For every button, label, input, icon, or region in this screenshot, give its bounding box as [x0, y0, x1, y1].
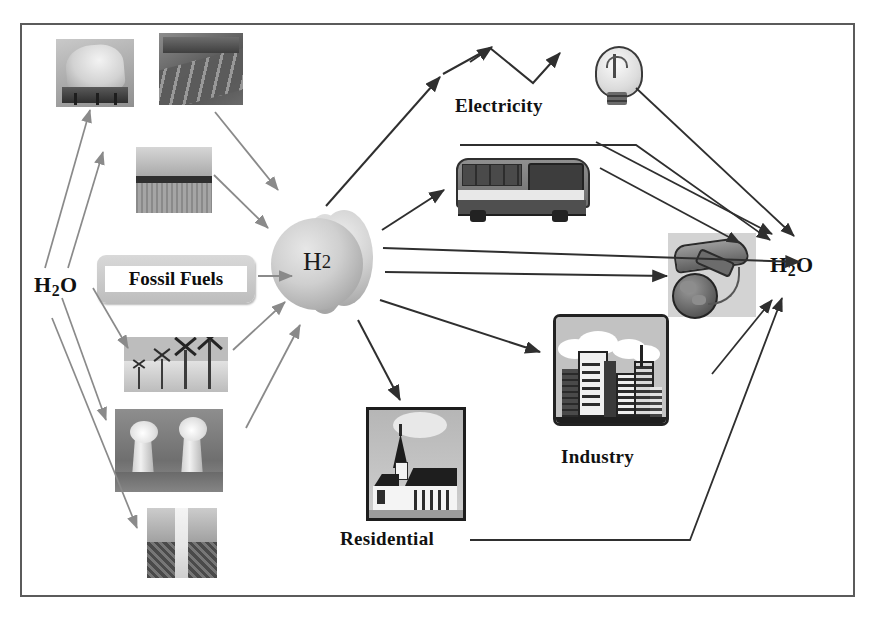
fossil-fuels-label-band: Fossil Fuels: [105, 266, 247, 292]
solar-thermal-collector-photo: [56, 39, 134, 107]
residential-label: Residential: [340, 528, 434, 550]
light-bulb-icon: [589, 42, 645, 110]
biomass-field-photo: [136, 147, 212, 213]
electricity-label: Electricity: [455, 95, 543, 117]
fossil-fuels-label: Fossil Fuels: [129, 268, 223, 290]
geothermal-steam-vent-photo: [147, 508, 217, 578]
airplane-globe-icon: [668, 233, 756, 317]
nuclear-cooling-towers-photo: [115, 409, 223, 492]
wind-turbines-photo: [124, 337, 228, 392]
diagram-canvas: Fossil Fuels H2: [0, 0, 876, 620]
bus-photo: [448, 148, 594, 226]
fossil-fuels-box[interactable]: Fossil Fuels: [97, 255, 255, 303]
hydrogen-cylinder[interactable]: H2: [271, 210, 379, 314]
industry-icon: [553, 314, 669, 426]
solar-photovoltaic-array-photo: [159, 33, 243, 105]
residential-church-photo: [366, 407, 466, 521]
water-input-label: H2O: [34, 272, 78, 300]
industry-label: Industry: [561, 446, 634, 468]
water-output-label: H2O: [770, 252, 814, 280]
hydrogen-label: H2: [271, 210, 363, 314]
